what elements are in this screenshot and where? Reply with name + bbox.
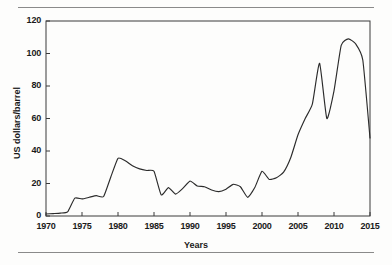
x-tick-label: 2010 [319,221,349,231]
figure-container: 020406080100120 197019751980198519901995… [0,0,392,265]
x-tick-label: 2005 [283,221,313,231]
x-axis-title: Years [0,240,392,250]
x-tick-label: 2015 [355,221,385,231]
x-tick-label: 1990 [175,221,205,231]
x-tick-label: 1995 [211,221,241,231]
y-tick-label: 20 [19,178,41,188]
y-tick-label: 60 [19,113,41,123]
y-tick-label: 0 [19,210,41,220]
data-series-group [46,39,370,214]
x-tick-marks [46,212,370,216]
y-tick-label: 100 [19,48,41,58]
x-tick-label: 1970 [31,221,61,231]
x-tick-label: 2000 [247,221,277,231]
x-tick-label: 1975 [67,221,97,231]
x-tick-label: 1985 [139,221,169,231]
y-tick-label: 80 [19,80,41,90]
plot-frame-border [46,21,370,216]
y-tick-label: 120 [19,15,41,25]
axes-frame [46,21,370,216]
y-tick-marks [46,21,50,216]
x-tick-label: 1980 [103,221,133,231]
y-tick-label: 40 [19,145,41,155]
y-axis-title: US dollars/barrel [12,73,22,173]
line-series-crude-oil-price [46,39,370,214]
